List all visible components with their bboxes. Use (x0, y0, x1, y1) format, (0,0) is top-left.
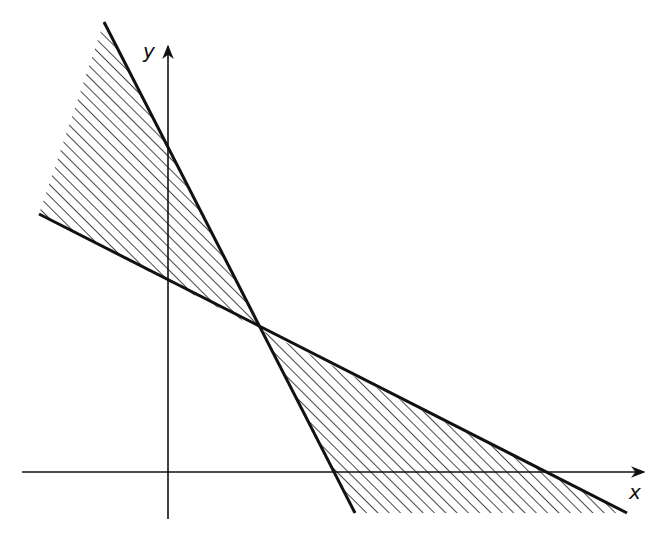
y-axis-label: y (143, 41, 155, 61)
upper-left-shaded-region (39, 22, 261, 330)
diagram-canvas (0, 0, 664, 541)
x-axis-label: x (629, 482, 641, 502)
